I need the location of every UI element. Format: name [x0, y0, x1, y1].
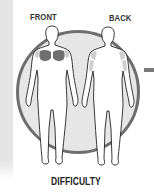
difficulty-label: DIFFICULTY [51, 176, 101, 187]
body-figures [0, 0, 154, 193]
back-body-figure-icon [82, 27, 134, 165]
front-body-figure-icon [26, 26, 78, 164]
